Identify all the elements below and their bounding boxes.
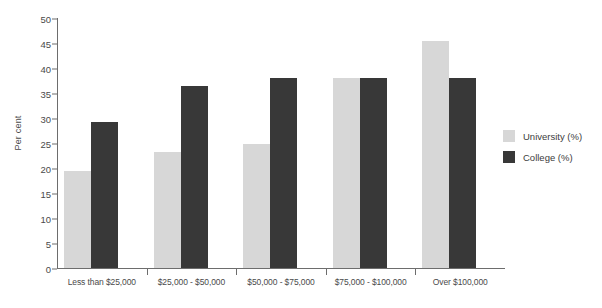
x-axis-label: $25,000 - $50,000 — [158, 277, 225, 287]
x-axis-tick-mark — [147, 269, 148, 275]
legend-item[interactable]: College (%) — [503, 151, 582, 163]
y-axis-tick-label: 45 — [17, 39, 51, 50]
y-axis-title: Per cent — [13, 93, 23, 173]
y-axis-tick-label: 0 — [17, 264, 51, 275]
y-axis-tick-label: 15 — [17, 189, 51, 200]
bar-university — [64, 171, 91, 269]
x-axis-label: $75,000 - $100,000 — [335, 277, 407, 287]
legend-swatch-college — [503, 151, 515, 163]
bar-group — [57, 18, 147, 268]
bar-university — [422, 41, 449, 268]
x-axis-line — [57, 268, 505, 269]
legend-label: College (%) — [523, 152, 573, 163]
bar-university — [333, 78, 360, 268]
legend-label: University (%) — [523, 131, 582, 142]
plot-area: 05101520253035404550 — [57, 18, 505, 269]
y-axis-tick-label: 5 — [17, 239, 51, 250]
y-axis-tick-label: 40 — [17, 64, 51, 75]
bar-college — [270, 78, 297, 268]
x-axis-label: Less than $25,000 — [68, 277, 136, 287]
y-axis-tick-label: 10 — [17, 214, 51, 225]
legend: University (%)College (%) — [503, 130, 582, 172]
bar-university — [154, 152, 181, 268]
x-axis-tick-mark — [236, 269, 237, 275]
y-axis-tick-label: 25 — [17, 139, 51, 150]
bar-college — [181, 86, 208, 269]
y-axis-tick-mark — [52, 269, 57, 270]
bar-group — [326, 18, 416, 268]
x-axis-tick-mark — [415, 269, 416, 275]
x-axis-label: Over $100,000 — [433, 277, 488, 287]
x-axis-label: $50,000 - $75,000 — [247, 277, 314, 287]
bar-university — [243, 144, 270, 269]
bar-group — [236, 18, 326, 268]
x-axis-tick-mark — [326, 269, 327, 275]
legend-item[interactable]: University (%) — [503, 130, 582, 142]
y-axis-tick-label: 35 — [17, 89, 51, 100]
bar-group — [147, 18, 237, 268]
y-axis-tick-label: 30 — [17, 114, 51, 125]
bar-college — [449, 78, 476, 268]
y-axis-tick-label: 20 — [17, 164, 51, 175]
bar-group — [415, 18, 505, 268]
y-axis-tick-label: 50 — [17, 14, 51, 25]
bar-college — [360, 78, 387, 268]
legend-swatch-university — [503, 130, 515, 142]
bar-college — [91, 122, 118, 269]
bar-chart: Per cent 05101520253035404550 Less than … — [0, 0, 602, 308]
